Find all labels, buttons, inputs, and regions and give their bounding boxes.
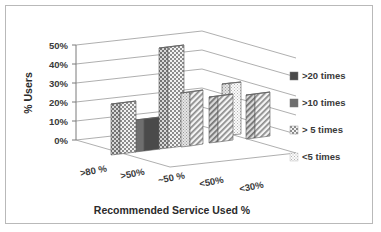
y-tick-label: 50% (49, 40, 69, 51)
legend-swatch-dots-light (290, 153, 298, 161)
legend-label: >10 times (302, 97, 346, 108)
x-category-label: >50% (119, 166, 146, 182)
y-tick-label: 40% (49, 59, 69, 70)
legend-label: > 5 times (302, 124, 343, 135)
y-tick-label: 30% (49, 78, 69, 89)
legend-item-gt5-times[interactable]: > 5 times (290, 124, 343, 135)
bar-gt10-times-cat5 (246, 92, 270, 139)
x-category-labels: >80 % >50% ~50 % <50% <30% (79, 162, 265, 194)
legend-item-lt5-times[interactable]: <5 times (290, 151, 340, 162)
legend-item-gt20-times[interactable]: >20 times (290, 70, 346, 81)
bar-gt5-times-cat3 (159, 45, 184, 149)
chart-legend: >20 times >10 times > 5 times <5 times (290, 70, 346, 162)
bar-gt5-times-cat1 (111, 101, 136, 155)
y-tick-label: 0% (54, 135, 68, 146)
legend-swatch-solid-mid (290, 99, 298, 107)
x-category-label: <50% (198, 174, 225, 190)
bar-lt5-times-cat3 (181, 90, 203, 147)
x-category-label: ~50 % (157, 169, 186, 185)
bar-gt20-times-cat2 (135, 117, 160, 152)
x-category-label: <30% (238, 179, 265, 195)
legend-item-gt10-times[interactable]: >10 times (290, 97, 346, 108)
bar-gt10-times-cat4 (209, 94, 233, 143)
bar-chart-3d: 50% 40% 30% 20% 10% 0% % Users >80 % >50… (6, 6, 374, 225)
legend-swatch-solid-dark (290, 72, 298, 80)
y-tick-label: 20% (49, 97, 69, 108)
legend-label: <5 times (302, 151, 340, 162)
chart-plot-area: 50% 40% 30% 20% 10% 0% % Users >80 % >50… (6, 6, 374, 225)
x-axis-title: Recommended Service Used % (94, 204, 251, 216)
x-category-label: >80 % (79, 162, 108, 178)
y-tick-labels: 50% 40% 30% 20% 10% 0% (49, 40, 69, 146)
legend-label: >20 times (302, 70, 346, 81)
chart-frame: 50% 40% 30% 20% 10% 0% % Users >80 % >50… (5, 5, 373, 224)
y-tick-label: 10% (49, 116, 69, 127)
legend-swatch-checker (290, 126, 298, 134)
y-axis (72, 45, 76, 140)
y-axis-title: % Users (22, 72, 34, 114)
